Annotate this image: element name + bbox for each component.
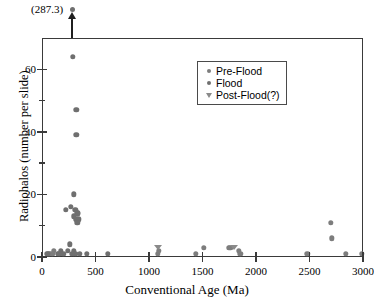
legend-item-pre-flood: Pre-Flood <box>202 65 280 77</box>
legend-marker-shape <box>207 81 212 86</box>
x-axis-tick <box>202 252 203 262</box>
x-axis-tick <box>309 252 310 262</box>
y-axis-minor-tick <box>39 225 45 226</box>
circle-marker-icon <box>202 81 216 86</box>
legend-marker-shape <box>206 93 212 98</box>
legend-item-flood: Flood <box>202 77 280 89</box>
x-axis-tick-label: 1000 <box>138 266 160 277</box>
x-axis-tick <box>95 252 96 262</box>
data-point <box>61 251 66 256</box>
data-point <box>84 251 89 256</box>
data-point <box>328 220 333 225</box>
x-axis-tick <box>148 252 149 262</box>
data-point <box>238 251 243 256</box>
legend-item-label: Flood <box>216 78 242 89</box>
data-point <box>343 251 348 256</box>
data-point <box>201 245 206 250</box>
x-axis-tick-label: 2500 <box>299 266 321 277</box>
offscale-annotation-label: (287.3) <box>31 4 63 15</box>
y-axis-title: Radiohalos (number per slide) <box>18 36 31 256</box>
data-point <box>74 107 79 112</box>
scatter-chart-figure: (287.3) 0500100015002000250030000204060 … <box>0 0 374 303</box>
y-axis-minor-tick <box>39 100 45 101</box>
legend-item-label: Post-Flood(?) <box>216 90 280 101</box>
data-point <box>193 251 198 256</box>
data-point <box>329 236 334 241</box>
data-point <box>70 54 75 59</box>
triangle-down-icon <box>202 93 216 98</box>
circle-marker-icon <box>202 69 216 74</box>
x-axis-title: Conventional Age (Ma) <box>0 283 374 296</box>
data-point <box>75 220 80 225</box>
legend-item-post-flood: Post-Flood(?) <box>202 89 280 101</box>
legend-item-label: Pre-Flood <box>216 66 262 77</box>
x-axis-tick-label: 500 <box>87 266 104 277</box>
y-axis-tick <box>37 256 47 257</box>
y-axis-tick <box>37 131 47 132</box>
data-point <box>71 192 76 197</box>
x-axis-tick-label: 3000 <box>352 266 374 277</box>
y-axis-tick <box>37 69 47 70</box>
data-point <box>230 245 238 250</box>
data-point <box>63 207 68 212</box>
chart-legend: Pre-FloodFloodPost-Flood(?) <box>197 61 287 105</box>
data-point <box>77 251 82 256</box>
x-axis-tick-label: 1500 <box>192 266 214 277</box>
data-point <box>105 251 110 256</box>
y-axis-tick <box>37 194 47 195</box>
x-axis-tick-label: 2000 <box>245 266 267 277</box>
data-point <box>74 132 79 137</box>
x-axis-tick-label: 0 <box>39 266 45 277</box>
legend-marker-shape <box>207 69 212 74</box>
x-axis-tick <box>362 252 363 262</box>
x-axis-tick <box>255 252 256 262</box>
data-point <box>67 242 72 247</box>
y-axis-minor-tick <box>39 162 45 163</box>
offscale-arrow-shaft-icon <box>71 14 73 38</box>
data-point <box>154 245 162 250</box>
